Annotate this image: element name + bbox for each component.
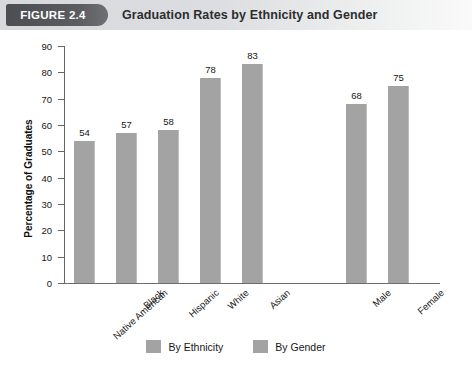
bar bbox=[158, 130, 179, 283]
y-axis-tick-label: 60 bbox=[30, 120, 52, 131]
x-axis-line bbox=[64, 283, 440, 284]
bar bbox=[74, 141, 95, 283]
bar bbox=[388, 86, 409, 284]
figure-number-badge: FIGURE 2.4 bbox=[6, 4, 108, 26]
bar-value-label: 57 bbox=[110, 119, 143, 130]
figure-header-band: FIGURE 2.4 Graduation Rates by Ethnicity… bbox=[0, 0, 472, 30]
bar-value-label: 54 bbox=[68, 127, 101, 138]
legend-swatch bbox=[146, 340, 161, 353]
legend-item: By Ethnicity bbox=[146, 340, 223, 353]
y-axis-tick-label: 70 bbox=[30, 93, 52, 104]
y-axis-tick-label: 80 bbox=[30, 67, 52, 78]
chart-plot-region: Percentage of Graduates 0102030405060708… bbox=[0, 30, 472, 369]
bar-value-label: 68 bbox=[340, 90, 373, 101]
x-axis-label: White bbox=[225, 287, 250, 311]
legend-label: By Gender bbox=[275, 341, 325, 353]
x-axis-label: Asian bbox=[267, 287, 292, 311]
chart-legend: By EthnicityBy Gender bbox=[0, 340, 472, 353]
bar-value-label: 58 bbox=[152, 116, 185, 127]
y-axis-tick-label: 20 bbox=[30, 225, 52, 236]
y-axis-tick-label: 50 bbox=[30, 146, 52, 157]
bar-value-label: 83 bbox=[236, 50, 269, 61]
bar bbox=[242, 64, 263, 283]
x-axis-label: Hispanic bbox=[186, 287, 220, 320]
legend-label: By Ethnicity bbox=[168, 341, 223, 353]
legend-swatch bbox=[253, 340, 268, 353]
bar-value-label: 78 bbox=[194, 64, 227, 75]
bar bbox=[346, 104, 367, 283]
bar-value-label: 75 bbox=[382, 72, 415, 83]
y-axis-tick-label: 90 bbox=[30, 41, 52, 52]
x-axis-label: Female bbox=[415, 287, 446, 316]
y-axis-tick bbox=[58, 283, 64, 284]
y-axis-tick-label: 40 bbox=[30, 172, 52, 183]
y-axis-tick-label: 30 bbox=[30, 199, 52, 210]
bars-layer: 54575878836875 bbox=[64, 46, 440, 283]
x-axis-label: Male bbox=[370, 287, 393, 309]
bar bbox=[200, 78, 221, 283]
figure-title: Graduation Rates by Ethnicity and Gender bbox=[122, 0, 377, 30]
y-axis-tick-label: 0 bbox=[30, 278, 52, 289]
y-axis-tick-label: 10 bbox=[30, 251, 52, 262]
bar bbox=[116, 133, 137, 283]
legend-item: By Gender bbox=[253, 340, 325, 353]
